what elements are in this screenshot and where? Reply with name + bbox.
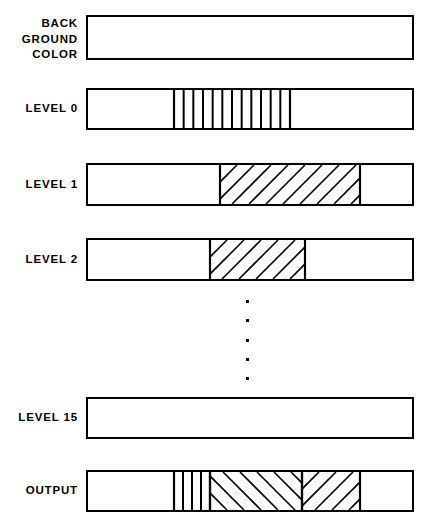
fill-region-diagonal-forward [154, 240, 412, 279]
row-label-level-15: LEVEL 15 [0, 410, 78, 426]
bar-fill-svg-level-15 [88, 399, 412, 437]
bar-fill-svg-background-color [88, 17, 412, 58]
bar-level-0 [86, 88, 414, 130]
bar-fill-svg-level-0 [88, 90, 412, 128]
bar-fill-svg-level-1 [88, 165, 412, 204]
bar-fill-svg-output [88, 472, 412, 510]
bar-output [86, 470, 414, 512]
row-label-level-1: LEVEL 1 [0, 177, 78, 193]
row-label-background-color: BACK GROUND COLOR [0, 16, 78, 63]
bar-fill-area-level-15 [88, 399, 412, 437]
ellipsis-dot [246, 377, 249, 380]
bar-fill-area-level-2 [88, 240, 412, 279]
ellipsis-dot [246, 339, 249, 342]
ellipsis-dot [246, 319, 249, 322]
row-label-level-0: LEVEL 0 [0, 101, 78, 117]
bar-level-1 [86, 163, 414, 206]
bar-level-15 [86, 397, 414, 439]
fill-region-diagonal-forward [164, 165, 412, 204]
level-compositing-diagram: BACK GROUND COLORLEVEL 0LEVEL 1LEVEL 2LE… [0, 0, 428, 523]
ellipsis-dot [246, 300, 249, 303]
bar-fill-area-output [88, 472, 412, 510]
bar-fill-area-level-0 [88, 90, 412, 128]
bar-fill-area-background-color [88, 17, 412, 58]
fill-region-vertical-stripes [174, 90, 290, 128]
bar-fill-svg-level-2 [88, 240, 412, 279]
row-label-output: OUTPUT [0, 483, 78, 499]
bar-background-color [86, 15, 414, 60]
fill-region-vertical-stripes [174, 472, 210, 510]
row-label-level-2: LEVEL 2 [0, 252, 78, 268]
bar-fill-area-level-1 [88, 165, 412, 204]
ellipsis-dot [246, 358, 249, 361]
bar-level-2 [86, 238, 414, 281]
